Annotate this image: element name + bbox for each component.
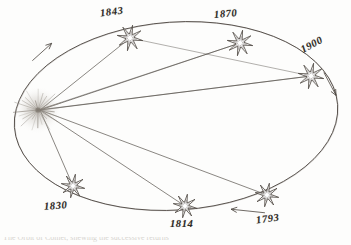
orbit-direction-arrow-upper-left-shaft [32, 43, 51, 60]
orbit-direction-arrow-right-shaft [324, 73, 336, 96]
chord-line-3 [38, 76, 311, 110]
orbit-chord-lines [38, 38, 311, 110]
date-label-1870: 1870 [214, 7, 238, 20]
figure-caption: The Orbit of Comet, shewing the successi… [3, 237, 169, 242]
comet-star-1830 [61, 174, 85, 198]
comet-star-1843 [117, 25, 142, 50]
date-label-1814: 1814 [170, 218, 193, 229]
comet-star-1900 [298, 63, 323, 88]
sun-core [35, 107, 40, 112]
radius-vector-1814 [40, 110, 185, 206]
chord-line-2 [38, 43, 240, 110]
caption-strip: The Orbit of Comet, shewing the successi… [0, 237, 351, 245]
comet-star-markers [61, 25, 324, 218]
comet-orbit-figure: 184318701900179318141830 The Orbit of Co… [0, 0, 351, 245]
date-label-1830: 1830 [44, 199, 68, 212]
comet-star-1814 [173, 194, 197, 218]
comet-star-1793 [255, 183, 279, 207]
comet-star-1870 [227, 30, 252, 55]
sun-starburst-icon [13, 86, 62, 134]
